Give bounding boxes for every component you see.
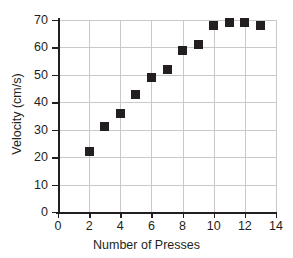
y-tick-label: 0: [8, 206, 48, 219]
y-tick-label: 70: [8, 14, 48, 27]
x-tick-label: 8: [168, 220, 198, 233]
y-tick-label: 60: [8, 41, 48, 54]
x-tick-label: 14: [261, 220, 291, 233]
y-tick-mark: [52, 157, 58, 158]
data-point: [225, 18, 234, 27]
gridline-horizontal: [58, 185, 276, 186]
y-tick-label: 50: [8, 69, 48, 82]
data-point: [194, 40, 203, 49]
x-tick-label: 6: [136, 220, 166, 233]
data-point: [131, 90, 140, 99]
x-tick-mark: [151, 212, 152, 218]
gridline-vertical: [89, 20, 90, 212]
x-tick-label: 0: [43, 220, 73, 233]
data-point: [256, 21, 265, 30]
data-point: [85, 147, 94, 156]
plot-area: [58, 20, 276, 212]
y-tick-mark: [52, 130, 58, 131]
x-axis-title: Number of Presses: [0, 238, 293, 252]
data-point: [116, 109, 125, 118]
gridline-vertical: [214, 20, 215, 212]
y-tick-mark: [52, 47, 58, 48]
data-point: [178, 46, 187, 55]
gridline-horizontal: [58, 47, 276, 48]
x-tick-mark: [214, 212, 215, 218]
scatter-chart: Velocity (cm/s) Number of Presses 010203…: [0, 0, 293, 258]
y-axis-line: [58, 18, 60, 214]
y-tick-mark: [52, 75, 58, 76]
x-tick-label: 10: [199, 220, 229, 233]
data-point: [100, 122, 109, 131]
y-tick-label: 10: [8, 179, 48, 192]
y-tick-label: 20: [8, 151, 48, 164]
x-tick-mark: [120, 212, 121, 218]
x-tick-mark: [276, 212, 277, 218]
gridline-vertical: [151, 20, 152, 212]
gridline-horizontal: [58, 130, 276, 131]
y-tick-label: 40: [8, 96, 48, 109]
x-tick-mark: [89, 212, 90, 218]
y-tick-label: 30: [8, 124, 48, 137]
data-point: [240, 18, 249, 27]
y-tick-mark: [52, 102, 58, 103]
x-tick-label: 4: [105, 220, 135, 233]
gridline-vertical: [276, 20, 277, 212]
data-point: [163, 65, 172, 74]
gridline-horizontal: [58, 75, 276, 76]
x-tick-label: 2: [74, 220, 104, 233]
y-tick-mark: [52, 20, 58, 21]
gridline-horizontal: [58, 102, 276, 103]
x-tick-mark: [245, 212, 246, 218]
gridline-horizontal: [58, 157, 276, 158]
x-tick-mark: [58, 212, 59, 218]
x-tick-label: 12: [230, 220, 260, 233]
y-tick-mark: [52, 185, 58, 186]
data-point: [209, 21, 218, 30]
gridline-vertical: [245, 20, 246, 212]
x-tick-mark: [183, 212, 184, 218]
data-point: [147, 73, 156, 82]
